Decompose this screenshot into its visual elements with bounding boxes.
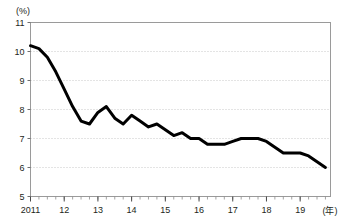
- xtick-label-2016: 16: [194, 205, 204, 215]
- ytick-label-8: 8: [19, 105, 24, 115]
- ytick-label-7: 7: [19, 134, 24, 144]
- ytick-label-10: 10: [14, 47, 24, 57]
- xtick-label-2015: 15: [160, 205, 170, 215]
- x-axis-unit-label: (年): [323, 205, 338, 216]
- ytick-label-5: 5: [19, 192, 24, 202]
- ytick-label-11: 11: [15, 18, 24, 28]
- line-chart: 567891011 20111213141516171819 (%) (年): [0, 0, 348, 222]
- xtick-label-2011: 2011: [21, 205, 40, 215]
- ytick-label-9: 9: [19, 76, 24, 86]
- xtick-label-2017: 17: [228, 205, 238, 215]
- y-axis-unit-label: (%): [16, 6, 30, 16]
- chart-background: [0, 0, 348, 222]
- xtick-label-2014: 14: [127, 205, 137, 215]
- chart-canvas: 567891011 20111213141516171819 (%) (年): [0, 0, 348, 222]
- xtick-label-2013: 13: [93, 205, 103, 215]
- ytick-label-6: 6: [19, 163, 24, 173]
- xtick-label-2019: 19: [295, 205, 305, 215]
- x-axis-tick-labels: 20111213141516171819: [21, 205, 305, 215]
- xtick-label-2012: 12: [59, 205, 69, 215]
- xtick-label-2018: 18: [261, 205, 271, 215]
